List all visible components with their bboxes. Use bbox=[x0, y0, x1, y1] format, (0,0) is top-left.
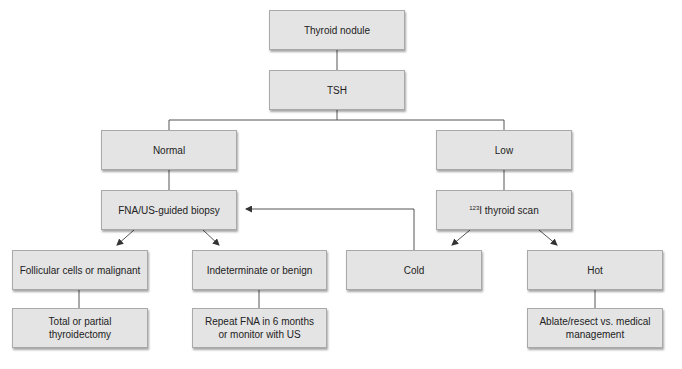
scan-label-text: I thyroid scan bbox=[479, 205, 538, 216]
node-low: Low bbox=[436, 130, 572, 170]
node-label-line1: Repeat FNA in 6 months bbox=[205, 315, 314, 328]
node-label: TSH bbox=[327, 84, 347, 97]
isotope-superscript: 123 bbox=[469, 205, 479, 211]
node-hot: Hot bbox=[527, 250, 663, 290]
node-thyroid-nodule: Thyroid nodule bbox=[269, 10, 405, 50]
edge-branch-normal-low bbox=[169, 120, 504, 130]
node-label-line1: Ablate/resect vs. medical bbox=[539, 315, 650, 328]
node-indeterminate: Indeterminate or benign bbox=[192, 250, 327, 290]
node-label-line2: or monitor with US bbox=[218, 328, 300, 341]
edge-fna-indeterminate bbox=[203, 230, 219, 245]
node-follicular: Follicular cells or malignant bbox=[12, 250, 148, 290]
edge-cold-fna bbox=[246, 209, 414, 250]
node-thyroid-scan: 123I thyroid scan bbox=[436, 190, 572, 230]
edge-fna-follicular bbox=[117, 230, 134, 245]
node-label: Indeterminate or benign bbox=[207, 264, 313, 277]
node-label: Cold bbox=[404, 264, 425, 277]
node-label: Follicular cells or malignant bbox=[20, 264, 141, 277]
node-fna-biopsy: FNA/US-guided biopsy bbox=[101, 190, 237, 230]
node-label: Low bbox=[495, 144, 513, 157]
node-ablate-resect: Ablate/resect vs. medical management bbox=[527, 308, 663, 348]
edge-scan-hot bbox=[539, 230, 557, 245]
node-tsh: TSH bbox=[269, 70, 405, 110]
edge-scan-cold bbox=[452, 230, 470, 245]
node-normal: Normal bbox=[101, 130, 237, 170]
node-label: Hot bbox=[587, 264, 603, 277]
node-label: FNA/US-guided biopsy bbox=[118, 204, 220, 217]
node-label: Normal bbox=[153, 144, 185, 157]
node-label: 123I thyroid scan bbox=[469, 204, 539, 217]
node-cold: Cold bbox=[346, 250, 482, 290]
node-label: Thyroid nodule bbox=[304, 24, 370, 37]
node-label-line2: management bbox=[566, 328, 624, 341]
node-repeat-fna: Repeat FNA in 6 months or monitor with U… bbox=[192, 308, 327, 348]
node-label: Total or partial thyroidectomy bbox=[17, 315, 143, 341]
node-thyroidectomy: Total or partial thyroidectomy bbox=[12, 308, 148, 348]
